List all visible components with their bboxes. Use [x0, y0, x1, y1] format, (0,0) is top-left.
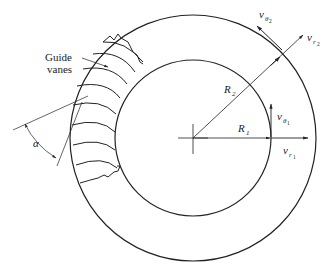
svg-text:R: R: [223, 83, 231, 95]
v-r1-label: v r 1: [283, 144, 296, 160]
guide-vanes-label: Guide vanes: [45, 51, 108, 75]
svg-text:v: v: [277, 110, 282, 122]
svg-text:2: 2: [317, 41, 320, 47]
svg-text:2: 2: [269, 18, 272, 24]
svg-text:v: v: [307, 31, 312, 43]
guide-vanes: [72, 34, 143, 183]
svg-text:vanes: vanes: [47, 63, 72, 75]
alpha-label: α: [33, 137, 39, 149]
svg-text:R: R: [237, 122, 245, 134]
v-r2-label: v r 2: [307, 31, 320, 47]
svg-text:v: v: [259, 8, 264, 20]
svg-text:r: r: [289, 151, 292, 159]
svg-text:1: 1: [293, 154, 296, 160]
svg-text:Guide: Guide: [45, 51, 72, 63]
v-theta2-arrow: [257, 26, 282, 50]
svg-text:2: 2: [232, 90, 236, 98]
svg-text:1: 1: [287, 120, 290, 126]
v-theta2-label: v θ 2: [259, 8, 272, 24]
r1-label: R 1: [237, 122, 250, 137]
alpha-angle: [13, 96, 88, 166]
v-theta1-label: v θ 1: [277, 110, 290, 126]
svg-text:1: 1: [246, 129, 250, 137]
svg-text:r: r: [313, 38, 316, 46]
guide-vane-diagram: Guide vanes α R 2 v r 2 v θ 2 R 1 v r 1: [0, 0, 329, 274]
svg-text:v: v: [283, 144, 288, 156]
r2-label: R 2: [223, 83, 236, 98]
